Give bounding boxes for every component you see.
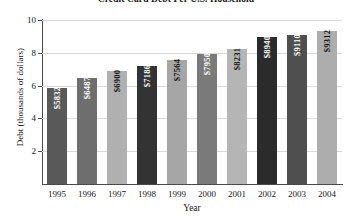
bar[interactable]: $7186 [137,66,157,184]
x-axis-tick-label: 1998 [130,189,164,199]
x-axis-title: Year [42,203,342,213]
bar[interactable]: $6487 [77,78,97,184]
bar-value-label: $7564 [172,59,182,81]
bar-value-label: $6487 [82,77,92,99]
y-axis-tick-label: 4 [32,113,37,123]
bar[interactable]: $8940 [257,37,277,184]
bar-value-label: $7950 [202,53,212,75]
bar[interactable]: $6900 [107,71,127,184]
chart-title: Credit Card Debt Per U.S. Household [0,0,352,4]
x-axis-tick-label: 1999 [160,189,194,199]
x-axis-tick-label: 1997 [100,189,134,199]
x-axis-tick-label: 1995 [40,189,74,199]
x-axis-tick-label: 2003 [280,189,314,199]
y-axis-tick-label: 2 [32,146,37,156]
x-axis-tick-label: 1996 [70,189,104,199]
bar-value-label: $9312 [322,30,332,52]
bar-value-label: $7186 [142,65,152,87]
bar-value-label: $6900 [112,70,122,92]
x-axis-line [42,184,343,185]
x-axis-tick-label: 2000 [190,189,224,199]
bar-value-label: $8231 [232,48,242,70]
bar[interactable]: $7950 [197,54,217,184]
y-axis-tick-label: 6 [32,81,37,91]
bar-series: $5832$6487$6900$7186$7564$7950$8231$8940… [42,20,342,184]
bar[interactable]: $9312 [317,31,337,184]
bar[interactable]: $5832 [47,88,67,184]
plot-area: 246810 $5832$6487$6900$7186$7564$7950$82… [42,20,342,184]
x-axis-tick-label: 2001 [220,189,254,199]
bar[interactable]: $9110 [287,35,307,184]
y-axis-title: Debt (thousands of dollars) [15,17,25,177]
bar-value-label: $9110 [292,34,302,56]
bar[interactable]: $8231 [227,49,247,184]
x-axis-tick-label: 2002 [250,189,284,199]
bar-value-label: $8940 [262,36,272,58]
y-axis-tick-label: 8 [32,48,37,58]
bar[interactable]: $7564 [167,60,187,184]
bar-chart: Credit Card Debt Per U.S. Household Debt… [0,0,352,224]
x-axis-tick-label: 2004 [310,189,344,199]
y-axis-tick-label: 10 [27,15,36,25]
bar-value-label: $5832 [52,87,62,109]
